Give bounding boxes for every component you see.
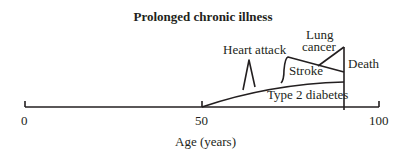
axis-label: Age (years) bbox=[175, 135, 236, 148]
tick-label-50: 50 bbox=[195, 114, 208, 127]
heart-attack-spike bbox=[243, 60, 255, 90]
heart-attack-label: Heart attack bbox=[223, 43, 286, 56]
diabetes-label: Type 2 diabetes bbox=[267, 88, 348, 101]
lung-cancer-label-line2: cancer bbox=[302, 40, 336, 53]
tick-label-100: 100 bbox=[369, 114, 389, 127]
stroke-label: Stroke bbox=[289, 64, 323, 77]
death-label: Death bbox=[348, 57, 379, 70]
tick-label-0: 0 bbox=[21, 114, 28, 127]
